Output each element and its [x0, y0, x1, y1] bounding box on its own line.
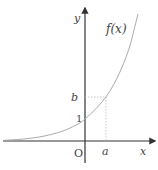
a-label: a [102, 145, 109, 158]
y-axis-label: y [73, 12, 81, 25]
origin-label: O [74, 147, 83, 160]
function-label: f(x) [105, 22, 127, 36]
one-label: 1 [76, 113, 82, 124]
b-label: b [71, 91, 78, 104]
x-axis-label: x [140, 145, 147, 158]
function-graph: y f(x) b 1 O a x [0, 0, 158, 170]
